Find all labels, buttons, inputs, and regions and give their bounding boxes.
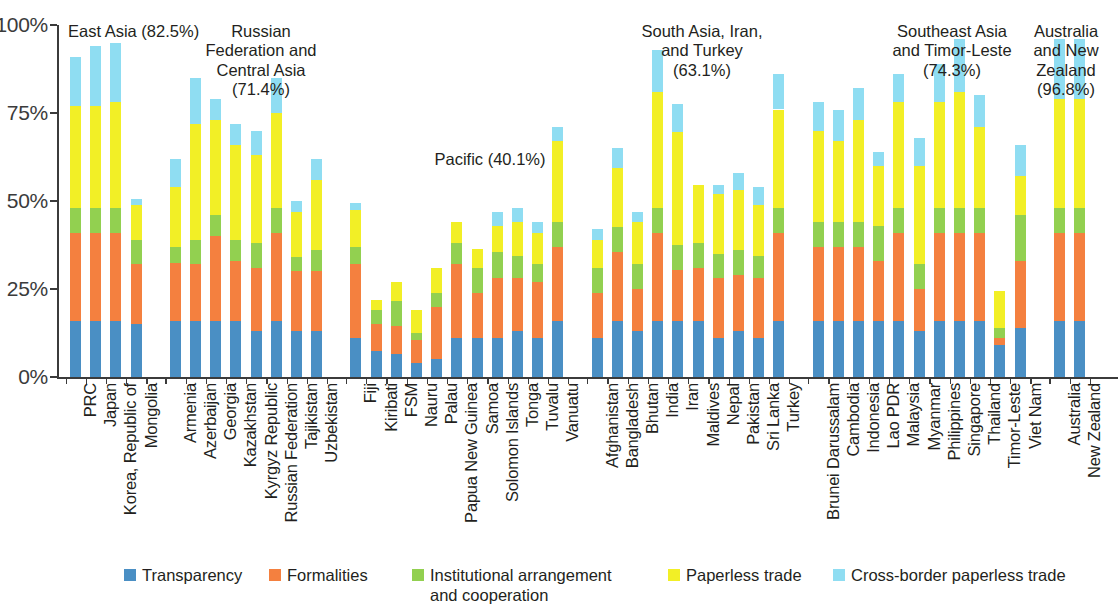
bar-segment-formalities <box>210 236 221 320</box>
x-axis-label: Afghanistan <box>604 383 621 468</box>
x-axis-label: Georgia <box>222 383 239 440</box>
bar-viet-nam[interactable] <box>1015 145 1026 377</box>
bar-india[interactable] <box>652 50 663 377</box>
bar-azerbaijan[interactable] <box>190 78 201 377</box>
bar-segment-formalities <box>954 233 965 321</box>
bar-uzbekistan[interactable] <box>311 159 322 377</box>
x-axis-label: Australia <box>1066 383 1083 445</box>
bar-armenia[interactable] <box>170 159 181 377</box>
bar-nepal[interactable] <box>713 185 724 377</box>
bar-segment-institutional <box>893 208 904 233</box>
bar-tajikistan[interactable] <box>291 201 302 377</box>
bar-segment-crossborder <box>291 201 302 212</box>
bar-segment-transparency <box>632 331 643 377</box>
bar-segment-paperless <box>813 131 824 223</box>
bar-segment-formalities <box>251 268 262 331</box>
bar-segment-crossborder <box>813 102 824 130</box>
bar-segment-institutional <box>492 252 503 278</box>
bar-maldives[interactable] <box>693 185 704 377</box>
bar-myanmar[interactable] <box>914 138 925 377</box>
bar-segment-paperless <box>411 310 422 333</box>
bar-mongolia[interactable] <box>131 199 142 377</box>
bar-segment-crossborder <box>131 199 142 204</box>
bar-brunei-darussalam[interactable] <box>813 102 824 377</box>
legend-item[interactable]: Formalities <box>269 566 368 586</box>
bar-segment-crossborder <box>251 131 262 156</box>
bar-nauru[interactable] <box>411 310 422 377</box>
bar-iran[interactable] <box>672 104 683 377</box>
bar-segment-institutional <box>431 293 442 307</box>
bar-georgia[interactable] <box>210 99 221 377</box>
bar-fiji[interactable] <box>350 203 361 377</box>
legend-item[interactable]: Institutional arrangement and cooperatio… <box>412 566 612 606</box>
bar-segment-paperless <box>612 168 623 228</box>
bar-japan[interactable] <box>90 46 101 377</box>
bar-segment-formalities <box>693 268 704 321</box>
bar-philippines[interactable] <box>934 64 945 377</box>
bar-segment-institutional <box>291 257 302 271</box>
bar-segment-paperless <box>532 233 543 265</box>
bar-segment-paperless <box>693 185 704 243</box>
bar-segment-institutional <box>131 240 142 265</box>
bar-cambodia[interactable] <box>833 109 844 377</box>
legend-item[interactable]: Transparency <box>124 566 242 586</box>
bar-palau[interactable] <box>431 268 442 377</box>
bar-segment-crossborder <box>672 104 683 132</box>
bar-afghanistan[interactable] <box>592 229 603 377</box>
bar-segment-formalities <box>1015 261 1026 328</box>
bar-segment-paperless <box>291 212 302 258</box>
bar-sri-lanka[interactable] <box>753 187 764 377</box>
bar-kyrgyz-republic[interactable] <box>251 131 262 377</box>
bar-papua-new-guinea[interactable] <box>451 222 462 377</box>
bar-segment-formalities <box>994 338 1005 345</box>
bar-segment-institutional <box>271 208 282 233</box>
bar-bhutan[interactable] <box>632 212 643 377</box>
x-axis-label: Philippines <box>946 383 963 461</box>
bar-solomon-islands[interactable] <box>492 212 503 377</box>
bar-thailand[interactable] <box>974 95 985 377</box>
bar-timor-leste[interactable] <box>994 291 1005 377</box>
bar-segment-formalities <box>1074 233 1085 321</box>
bar-segment-formalities <box>592 293 603 339</box>
bar-bangladesh[interactable] <box>612 148 623 377</box>
bar-segment-institutional <box>1074 208 1085 233</box>
bar-segment-transparency <box>371 351 382 377</box>
x-axis-label: Bhutan <box>644 383 661 434</box>
bar-segment-crossborder <box>592 229 603 240</box>
legend-item[interactable]: Paperless trade <box>668 566 802 586</box>
x-axis-label: Singapore <box>966 383 983 456</box>
bar-singapore[interactable] <box>954 39 965 377</box>
bar-kazakhstan[interactable] <box>230 124 241 377</box>
bar-segment-transparency <box>1074 321 1085 377</box>
bar-fsm[interactable] <box>391 282 402 377</box>
bar-segment-formalities <box>472 293 483 339</box>
legend-label: Transparency <box>142 566 242 586</box>
bar-segment-transparency <box>813 321 824 377</box>
x-axis-label: Japan <box>102 383 119 427</box>
bar-kiribati[interactable] <box>371 300 382 377</box>
bar-korea-republic-of[interactable] <box>110 43 121 377</box>
bar-segment-institutional <box>954 208 965 233</box>
x-axis-label: Timor-Leste <box>1006 383 1023 468</box>
bar-samoa[interactable] <box>472 249 483 377</box>
bar-lao-pdr[interactable] <box>873 152 884 377</box>
bar-pakistan[interactable] <box>733 173 744 377</box>
bar-segment-paperless <box>131 205 142 240</box>
bar-segment-transparency <box>110 321 121 377</box>
bar-segment-paperless <box>70 106 81 208</box>
bar-russian-federation[interactable] <box>271 78 282 377</box>
bar-segment-institutional <box>974 208 985 233</box>
bar-indonesia[interactable] <box>853 88 864 377</box>
bar-segment-formalities <box>893 233 904 321</box>
bar-malaysia[interactable] <box>893 74 904 377</box>
bar-segment-crossborder <box>612 148 623 167</box>
legend-item[interactable]: Cross-border paperless trade <box>833 566 1066 586</box>
bar-tonga[interactable] <box>512 208 523 377</box>
y-axis-tick-label: 0% <box>18 365 48 389</box>
x-axis-label: Kazakhstan <box>242 383 259 467</box>
bar-turkey[interactable] <box>773 74 784 377</box>
bar-tuvalu[interactable] <box>532 222 543 377</box>
bar-segment-institutional <box>853 222 864 247</box>
bar-prc[interactable] <box>70 57 81 377</box>
bar-segment-institutional <box>532 264 543 282</box>
